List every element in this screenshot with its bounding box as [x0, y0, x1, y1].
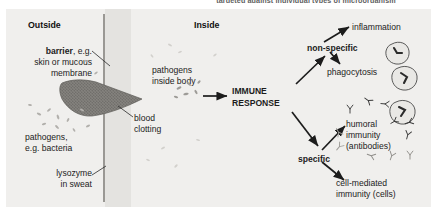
blood-clotting-line1: blood	[134, 113, 194, 124]
top-caption-fragment: targeted against individual types of mic…	[175, 0, 437, 3]
cell-mediated-line1: cell-mediated	[336, 178, 432, 189]
barrier-label: barrier, e.g. skin or mucous membrane	[10, 46, 92, 78]
header-outside: Outside	[28, 20, 61, 30]
pathogens-inside-line2: inside body	[152, 76, 227, 87]
blood-clotting-label: blood clotting	[134, 113, 194, 135]
pathogens-outside-line1: pathogens,	[25, 132, 97, 143]
pathogens-inside-label: pathogens inside body	[152, 65, 227, 87]
barrier-membrane-line-icon	[103, 14, 105, 202]
barrier-label-line2: skin or mucous	[10, 57, 92, 68]
immune-response-line1: IMMUNE	[232, 86, 298, 98]
cell-mediated-label: cell-mediated immunity (cells)	[336, 178, 432, 200]
cell-mediated-line2: immunity (cells)	[336, 189, 432, 200]
barrier-label-bold: barrier	[46, 46, 73, 56]
immune-response-line2: RESPONSE	[232, 98, 298, 110]
pathogens-outside-line2: e.g. bacteria	[25, 143, 97, 154]
lysozyme-label: lysozyme in sweat	[20, 168, 92, 190]
inflammation-label: inflammation	[352, 22, 401, 33]
pathogens-inside-line1: pathogens	[152, 65, 227, 76]
lysozyme-line2: in sweat	[20, 179, 92, 190]
humoral-line1: humoral	[346, 119, 408, 130]
phagocytosis-label: phagocytosis	[327, 67, 377, 78]
humoral-line2: immunity	[346, 130, 408, 141]
lysozyme-line1: lysozyme	[20, 168, 92, 179]
humoral-immunity-label: humoral immunity (antibodies)	[346, 119, 408, 151]
pathogens-outside-label: pathogens, e.g. bacteria	[25, 132, 97, 154]
inside-tint-band	[105, 9, 131, 207]
specific-label: specific	[298, 154, 330, 165]
humoral-line3: (antibodies)	[346, 141, 408, 152]
barrier-label-rest: , e.g.	[73, 46, 92, 56]
non-specific-label: non-specific	[307, 43, 358, 54]
header-inside: Inside	[194, 20, 219, 30]
blood-clotting-line2: clotting	[134, 124, 194, 135]
immune-response-label: IMMUNE RESPONSE	[232, 86, 298, 109]
immune-response-diagram: targeted against individual types of mic…	[0, 0, 437, 223]
barrier-label-line3: membrane	[10, 68, 92, 79]
